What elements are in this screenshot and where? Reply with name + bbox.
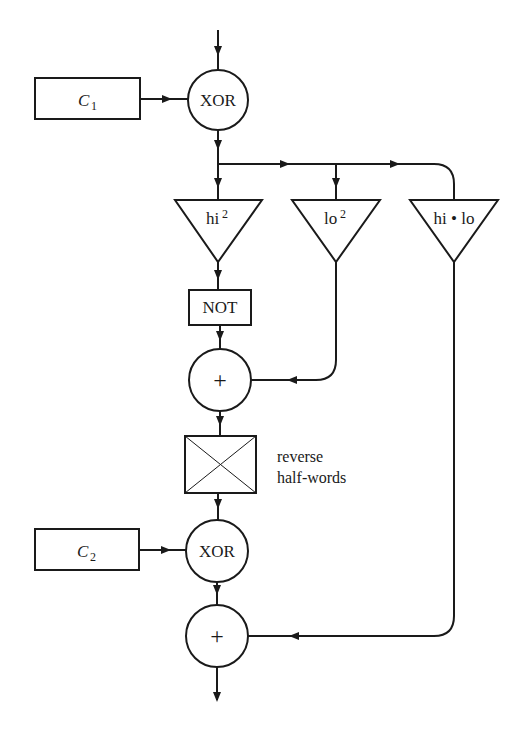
constant-c1-box: C 1: [35, 78, 140, 119]
lo-squared-triangle: lo 2: [292, 200, 380, 262]
output-arrow: [213, 667, 221, 702]
xor1-label: XOR: [200, 91, 237, 110]
lo-sq-superscript: 2: [340, 207, 346, 221]
c2-label: C: [77, 542, 89, 561]
xor2-to-add2-arrow: [213, 582, 221, 605]
xor2-label: XOR: [199, 542, 236, 561]
reverse-half-words-box: [185, 436, 256, 493]
branch-lines: [214, 130, 454, 200]
add-node-2: +: [186, 605, 248, 667]
not-box: NOT: [189, 290, 251, 325]
c1-subscript: 1: [91, 99, 97, 113]
c1-label: C: [78, 91, 90, 110]
hi-sq-superscript: 2: [222, 207, 228, 221]
hi-lo-label: hi • lo: [434, 209, 475, 228]
c1-to-xor1-arrow: [140, 95, 188, 103]
input-arrow: [214, 30, 222, 70]
swap-note-line-2: half-words: [277, 469, 346, 486]
flow-diagram: C 1 XOR hi 2 lo 2 hi • lo: [0, 0, 529, 732]
constant-c2-box: C 2: [35, 529, 139, 570]
swap-note-line-1: reverse: [277, 448, 323, 465]
xor-node-2: XOR: [186, 520, 248, 582]
add1-label: +: [213, 367, 227, 393]
c2-subscript: 2: [90, 550, 96, 564]
hi-sq-label: hi: [206, 209, 220, 228]
hi-sq-to-not-arrow: [214, 262, 222, 290]
not-label: NOT: [203, 298, 239, 317]
lo-sq-to-add1-line: [251, 262, 336, 384]
swap-to-xor2-arrow: [214, 493, 222, 520]
add1-to-swap-arrow: [216, 411, 224, 436]
xor-node-1: XOR: [188, 70, 248, 130]
c2-to-xor2-arrow: [139, 546, 186, 554]
hi-times-lo-triangle: hi • lo: [410, 200, 498, 262]
add-node-1: +: [189, 349, 251, 411]
hi-squared-triangle: hi 2: [175, 200, 262, 262]
add2-label: +: [210, 623, 224, 649]
lo-sq-label: lo: [324, 209, 337, 228]
not-to-add1-arrow: [216, 325, 224, 349]
